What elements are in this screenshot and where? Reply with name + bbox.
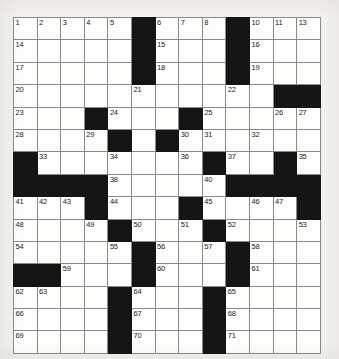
crossword-cell[interactable]: 58 xyxy=(249,241,273,263)
crossword-cell[interactable] xyxy=(179,309,203,331)
crossword-cell[interactable]: 19 xyxy=(249,62,273,84)
crossword-cell[interactable] xyxy=(273,219,297,241)
crossword-cell[interactable]: 27 xyxy=(297,107,321,129)
crossword-cell[interactable] xyxy=(61,129,85,151)
crossword-cell[interactable]: 65 xyxy=(226,286,250,308)
crossword-cell[interactable]: 52 xyxy=(226,219,250,241)
crossword-cell[interactable] xyxy=(179,85,203,107)
crossword-cell[interactable] xyxy=(108,40,132,62)
crossword-cell[interactable] xyxy=(61,309,85,331)
crossword-cell[interactable]: 45 xyxy=(202,197,226,219)
crossword-cell[interactable]: 18 xyxy=(155,62,179,84)
crossword-cell[interactable]: 3 xyxy=(61,18,85,40)
crossword-cell[interactable] xyxy=(273,40,297,62)
crossword-cell[interactable] xyxy=(297,62,321,84)
crossword-cell[interactable] xyxy=(273,331,297,353)
crossword-cell[interactable] xyxy=(179,286,203,308)
crossword-cell[interactable] xyxy=(37,241,61,263)
crossword-cell[interactable] xyxy=(273,309,297,331)
crossword-cell[interactable] xyxy=(155,309,179,331)
crossword-cell[interactable]: 11 xyxy=(273,18,297,40)
crossword-cell[interactable] xyxy=(37,107,61,129)
crossword-cell[interactable]: 16 xyxy=(249,40,273,62)
crossword-cell[interactable] xyxy=(131,197,155,219)
crossword-cell[interactable] xyxy=(202,62,226,84)
crossword-cell[interactable]: 62 xyxy=(14,286,38,308)
crossword-cell[interactable]: 5 xyxy=(108,18,132,40)
crossword-cell[interactable] xyxy=(297,264,321,286)
crossword-cell[interactable] xyxy=(249,85,273,107)
crossword-cell[interactable] xyxy=(202,85,226,107)
crossword-cell[interactable] xyxy=(131,129,155,151)
crossword-cell[interactable] xyxy=(155,174,179,196)
crossword-cell[interactable]: 32 xyxy=(249,129,273,151)
crossword-cell[interactable] xyxy=(179,174,203,196)
crossword-cell[interactable]: 48 xyxy=(14,219,38,241)
crossword-cell[interactable] xyxy=(84,152,108,174)
crossword-cell[interactable]: 8 xyxy=(202,18,226,40)
crossword-cell[interactable] xyxy=(155,197,179,219)
crossword-cell[interactable]: 53 xyxy=(297,219,321,241)
crossword-cell[interactable]: 59 xyxy=(61,264,85,286)
crossword-cell[interactable] xyxy=(61,40,85,62)
crossword-cell[interactable]: 20 xyxy=(14,85,38,107)
crossword-cell[interactable] xyxy=(84,40,108,62)
crossword-cell[interactable] xyxy=(37,129,61,151)
crossword-cell[interactable] xyxy=(273,241,297,263)
crossword-cell[interactable]: 33 xyxy=(37,152,61,174)
crossword-grid[interactable]: 1234567810111314151617181920212223242526… xyxy=(13,17,321,354)
crossword-cell[interactable] xyxy=(179,331,203,353)
crossword-cell[interactable]: 34 xyxy=(108,152,132,174)
crossword-cell[interactable]: 41 xyxy=(14,197,38,219)
crossword-cell[interactable] xyxy=(61,62,85,84)
crossword-cell[interactable] xyxy=(155,331,179,353)
crossword-cell[interactable]: 36 xyxy=(179,152,203,174)
crossword-cell[interactable] xyxy=(273,264,297,286)
crossword-cell[interactable]: 64 xyxy=(131,286,155,308)
crossword-cell[interactable]: 42 xyxy=(37,197,61,219)
crossword-cell[interactable]: 57 xyxy=(202,241,226,263)
crossword-cell[interactable] xyxy=(249,219,273,241)
crossword-cell[interactable] xyxy=(226,129,250,151)
crossword-cell[interactable]: 55 xyxy=(108,241,132,263)
crossword-cell[interactable]: 63 xyxy=(37,286,61,308)
crossword-cell[interactable]: 46 xyxy=(249,197,273,219)
crossword-cell[interactable] xyxy=(273,129,297,151)
crossword-cell[interactable] xyxy=(226,197,250,219)
crossword-cell[interactable]: 1 xyxy=(14,18,38,40)
crossword-cell[interactable] xyxy=(297,129,321,151)
crossword-cell[interactable] xyxy=(249,309,273,331)
crossword-cell[interactable]: 35 xyxy=(297,152,321,174)
crossword-cell[interactable] xyxy=(155,286,179,308)
crossword-cell[interactable] xyxy=(273,62,297,84)
crossword-cell[interactable]: 25 xyxy=(202,107,226,129)
crossword-cell[interactable] xyxy=(84,241,108,263)
crossword-cell[interactable] xyxy=(297,286,321,308)
crossword-cell[interactable] xyxy=(61,286,85,308)
crossword-cell[interactable] xyxy=(179,62,203,84)
crossword-cell[interactable] xyxy=(155,152,179,174)
crossword-cell[interactable] xyxy=(131,152,155,174)
crossword-cell[interactable] xyxy=(84,286,108,308)
crossword-cell[interactable]: 66 xyxy=(14,309,38,331)
crossword-cell[interactable]: 67 xyxy=(131,309,155,331)
crossword-cell[interactable]: 31 xyxy=(202,129,226,151)
crossword-cell[interactable] xyxy=(37,219,61,241)
crossword-cell[interactable] xyxy=(273,286,297,308)
crossword-cell[interactable] xyxy=(108,85,132,107)
crossword-cell[interactable] xyxy=(84,331,108,353)
crossword-cell[interactable] xyxy=(61,107,85,129)
crossword-cell[interactable] xyxy=(155,219,179,241)
crossword-cell[interactable]: 2 xyxy=(37,18,61,40)
crossword-cell[interactable] xyxy=(179,264,203,286)
crossword-cell[interactable]: 43 xyxy=(61,197,85,219)
crossword-cell[interactable]: 29 xyxy=(84,129,108,151)
crossword-cell[interactable] xyxy=(249,286,273,308)
crossword-cell[interactable]: 17 xyxy=(14,62,38,84)
crossword-cell[interactable]: 69 xyxy=(14,331,38,353)
crossword-cell[interactable] xyxy=(61,219,85,241)
crossword-cell[interactable] xyxy=(84,85,108,107)
crossword-cell[interactable]: 49 xyxy=(84,219,108,241)
crossword-cell[interactable] xyxy=(84,309,108,331)
crossword-cell[interactable] xyxy=(84,264,108,286)
